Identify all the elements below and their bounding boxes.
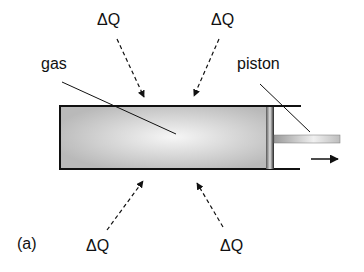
heat-piston-diagram — [0, 0, 364, 272]
heat-arrow-top-right-icon — [194, 39, 219, 96]
gas-label: gas — [41, 56, 67, 72]
piston-label: piston — [237, 56, 280, 72]
heat-label-top-right: ΔQ — [211, 12, 234, 28]
heat-arrow-bottom-right-icon — [197, 183, 223, 227]
panel-label: (a) — [17, 236, 37, 252]
heat-label-top-left: ΔQ — [97, 12, 120, 28]
heat-label-bottom-left: ΔQ — [86, 238, 109, 254]
heat-arrow-top-left-icon — [117, 39, 144, 97]
heat-label-bottom-right: ΔQ — [220, 238, 243, 254]
gas-region — [60, 106, 266, 168]
piston-rod — [274, 135, 340, 143]
piston-head — [266, 107, 274, 169]
heat-arrow-bottom-left-icon — [107, 181, 143, 230]
